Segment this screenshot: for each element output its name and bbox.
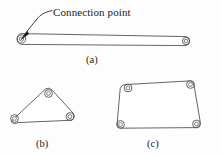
link-c-quaternary	[117, 81, 201, 129]
sub-label-b: (b)	[36, 138, 48, 149]
joint-c-top-right-bore	[189, 83, 193, 87]
joint-a-right-bore	[184, 39, 188, 43]
mechanism-links-figure: Connection point (a) (b) (c)	[0, 0, 222, 156]
sub-label-c: (c)	[147, 138, 159, 149]
joint-c-top-left-bore	[126, 86, 130, 90]
connection-point-annotation: Connection point	[53, 6, 131, 18]
joint-c-bottom-left-bore	[119, 123, 123, 127]
joint-b-left-bore	[13, 117, 17, 121]
figure-vector-canvas	[0, 0, 222, 156]
link-a-outline	[17, 34, 190, 46]
leader-line-curve	[24, 11, 52, 36]
joint-b-top-bore	[47, 92, 51, 96]
sub-label-a: (a)	[86, 54, 98, 65]
link-a-binary	[17, 34, 190, 46]
joint-c-bottom-right-bore	[195, 122, 199, 126]
joint-b-right-bore	[68, 115, 72, 119]
link-b-outline	[11, 88, 74, 123]
link-b-ternary	[11, 88, 75, 123]
